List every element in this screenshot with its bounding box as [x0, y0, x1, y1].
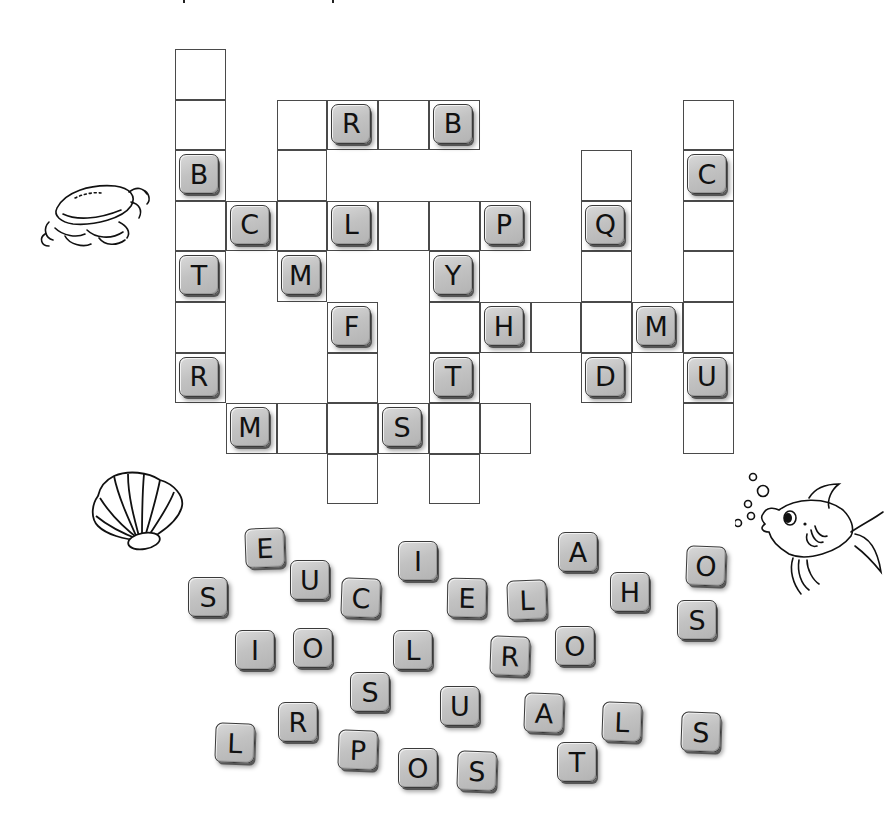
grid-cell: L	[327, 201, 378, 252]
letter-bank-tile[interactable]: C	[340, 577, 381, 618]
given-letter-tile: F	[331, 306, 371, 346]
grid-cell: Q	[581, 201, 632, 252]
given-letter-tile: Q	[585, 205, 625, 245]
letter-bank-tile[interactable]: T	[557, 742, 597, 782]
grid-cell: P	[480, 201, 531, 252]
letter-bank-tile[interactable]: E	[244, 527, 285, 568]
grid-cell[interactable]	[581, 302, 632, 353]
grid-cell: S	[378, 403, 429, 454]
grid-cell[interactable]	[175, 201, 226, 252]
seashell-icon	[88, 468, 188, 558]
grid-cell: T	[175, 251, 226, 302]
grid-cell[interactable]	[480, 403, 531, 454]
letter-bank-tile[interactable]: U	[440, 686, 480, 726]
given-letter-tile: C	[687, 154, 727, 194]
grid-cell[interactable]	[277, 100, 328, 151]
letter-bank-tile[interactable]: I	[235, 630, 275, 670]
given-letter-tile: R	[179, 357, 219, 397]
letter-bank-tile[interactable]: S	[677, 600, 717, 640]
grid-cell: M	[277, 251, 328, 302]
letter-bank-tile[interactable]: L	[601, 701, 642, 742]
grid-cell[interactable]	[683, 201, 734, 252]
grid-cell[interactable]	[683, 100, 734, 151]
cropped-title-fragment	[183, 0, 185, 3]
letter-bank-tile[interactable]: L	[393, 630, 433, 670]
letter-bank-tile[interactable]: R	[278, 702, 318, 742]
letter-bank-tile[interactable]: O	[398, 748, 438, 788]
grid-cell[interactable]	[429, 302, 480, 353]
letter-bank-tile[interactable]: S	[350, 672, 390, 712]
fish-icon	[735, 462, 885, 607]
crossword-board: BTRCMMRLFSBYTPHQDMCU ESUCIELAHOSIOLROSRL…	[0, 0, 885, 829]
grid-cell[interactable]	[683, 403, 734, 454]
grid-cell: B	[175, 150, 226, 201]
grid-cell[interactable]	[175, 49, 226, 100]
given-letter-tile: S	[382, 407, 422, 447]
grid-cell[interactable]	[277, 403, 328, 454]
letter-bank-tile[interactable]: S	[188, 577, 228, 617]
letter-bank-tile[interactable]: O	[685, 545, 726, 586]
grid-cell[interactable]	[581, 251, 632, 302]
crab-icon	[35, 178, 155, 258]
letter-bank-tile[interactable]: O	[293, 628, 333, 668]
grid-cell: D	[581, 353, 632, 404]
given-letter-tile: M	[281, 255, 321, 295]
grid-cell: U	[683, 353, 734, 404]
grid-cell[interactable]	[378, 201, 429, 252]
given-letter-tile: C	[230, 205, 270, 245]
letter-bank-tile[interactable]: I	[398, 541, 438, 581]
grid-cell: M	[226, 403, 277, 454]
letter-bank-tile[interactable]: R	[489, 635, 530, 676]
letter-bank-tile[interactable]: H	[610, 572, 650, 612]
letter-bank-tile[interactable]: U	[290, 560, 330, 600]
grid-cell: M	[632, 302, 683, 353]
grid-cell: Y	[429, 251, 480, 302]
cropped-title-fragment	[332, 0, 334, 3]
grid-cell[interactable]	[581, 150, 632, 201]
grid-cell: C	[226, 201, 277, 252]
given-letter-tile: M	[636, 306, 676, 346]
grid-cell[interactable]	[277, 201, 328, 252]
grid-cell[interactable]	[429, 403, 480, 454]
given-letter-tile: D	[585, 357, 625, 397]
given-letter-tile: H	[484, 306, 524, 346]
given-letter-tile: P	[484, 205, 524, 245]
grid-cell: H	[480, 302, 531, 353]
given-letter-tile: B	[433, 104, 473, 144]
given-letter-tile: M	[230, 407, 270, 447]
grid-cell[interactable]	[531, 302, 582, 353]
letter-bank-tile[interactable]: P	[337, 729, 378, 770]
grid-cell[interactable]	[683, 302, 734, 353]
grid-cell: C	[683, 150, 734, 201]
given-letter-tile: T	[179, 255, 219, 295]
grid-cell[interactable]	[175, 100, 226, 151]
letter-bank-tile[interactable]: L	[214, 722, 255, 763]
grid-cell: R	[327, 100, 378, 151]
letter-bank-tile[interactable]: S	[456, 750, 497, 791]
grid-cell: T	[429, 353, 480, 404]
given-letter-tile: Y	[433, 255, 473, 295]
grid-cell[interactable]	[327, 403, 378, 454]
grid-cell[interactable]	[277, 150, 328, 201]
grid-cell[interactable]	[378, 100, 429, 151]
given-letter-tile: B	[179, 154, 219, 194]
letter-bank-tile[interactable]: O	[555, 626, 595, 666]
letter-bank-tile[interactable]: S	[680, 711, 721, 752]
grid-cell[interactable]	[429, 454, 480, 505]
grid-cell: B	[429, 100, 480, 151]
given-letter-tile: T	[433, 357, 473, 397]
given-letter-tile: R	[331, 104, 371, 144]
letter-bank-tile[interactable]: A	[523, 692, 564, 733]
letter-bank-tile[interactable]: E	[447, 578, 488, 619]
grid-cell[interactable]	[175, 302, 226, 353]
given-letter-tile: U	[687, 357, 727, 397]
grid-cell[interactable]	[327, 454, 378, 505]
grid-cell: F	[327, 302, 378, 353]
grid-cell[interactable]	[683, 251, 734, 302]
given-letter-tile: L	[331, 205, 371, 245]
letter-bank-tile[interactable]: L	[506, 579, 547, 620]
grid-cell[interactable]	[429, 201, 480, 252]
grid-cell[interactable]	[327, 353, 378, 404]
letter-bank-tile[interactable]: A	[558, 532, 598, 572]
grid-cell: R	[175, 353, 226, 404]
